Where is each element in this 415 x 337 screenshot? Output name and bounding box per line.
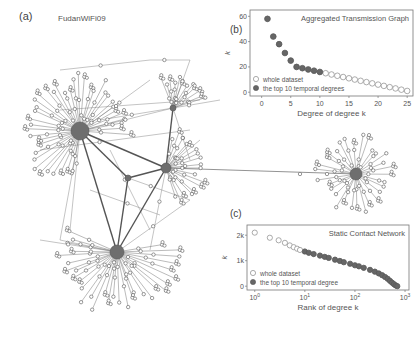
legend-filled: the top 10 temporal degree [260, 279, 338, 287]
y-axis-label: k [220, 255, 229, 260]
chart-c-static-contact: Static Contact Network10010110210301k2kR… [0, 0, 415, 337]
svg-text:0: 0 [240, 283, 244, 290]
x-axis-label: Rank of degree k [298, 303, 360, 312]
svg-text:102: 102 [350, 292, 361, 301]
chart-title: Static Contact Network [329, 229, 406, 238]
legend-open: whole dataset [259, 270, 300, 277]
svg-text:1k: 1k [237, 257, 245, 264]
svg-text:100: 100 [249, 292, 260, 301]
svg-text:103: 103 [400, 292, 411, 301]
svg-text:2k: 2k [237, 232, 245, 239]
svg-text:101: 101 [300, 292, 311, 301]
